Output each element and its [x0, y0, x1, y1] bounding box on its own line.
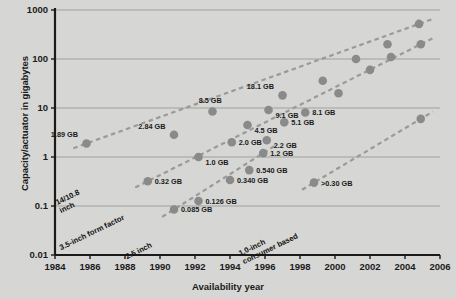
data-label: >0.30 GB: [321, 179, 352, 188]
x-tick-1984: 1984: [35, 261, 75, 272]
data-label: 0.540 GB: [256, 166, 287, 175]
x-tick-1990: 1990: [140, 261, 180, 272]
y-tick-1: 1: [2, 151, 48, 162]
chart-canvas: [0, 0, 456, 299]
x-tick-1998: 1998: [280, 261, 320, 272]
x-tick-1986: 1986: [70, 261, 110, 272]
y-tick-100: 100: [2, 53, 48, 64]
data-label: 2.84 GB: [138, 122, 165, 131]
data-label: 0.32 GB: [155, 177, 182, 186]
data-label: 8.1 GB: [312, 108, 335, 117]
data-label: 4.5 GB: [255, 126, 278, 135]
y-tick-10: 10: [2, 102, 48, 113]
data-label: 1.0 GB: [206, 158, 229, 167]
y-tick-0.1: 0.1: [2, 200, 48, 211]
data-label: 18.1 GB: [247, 82, 274, 91]
capacity-per-actuator-chart: Capacity/actuator in gigabytes Availabil…: [0, 0, 456, 299]
x-tick-2002: 2002: [350, 261, 390, 272]
data-label: 0.340 GB: [237, 176, 268, 185]
x-tick-1992: 1992: [175, 261, 215, 272]
x-axis-title: Availability year: [0, 281, 456, 292]
data-label: 0.126 GB: [206, 197, 237, 206]
x-tick-2004: 2004: [385, 261, 425, 272]
y-tick-1000: 1000: [2, 4, 48, 15]
y-tick-0.01: 0.01: [2, 249, 48, 260]
data-label: 2.0 GB: [239, 138, 262, 147]
x-tick-2000: 2000: [315, 261, 355, 272]
data-label: 1.89 GB: [51, 130, 78, 139]
data-label: 5.1 GB: [291, 118, 314, 127]
x-tick-2006: 2006: [420, 261, 456, 272]
data-label: 1.2 GB: [270, 149, 293, 158]
x-tick-1988: 1988: [105, 261, 145, 272]
data-label: 0.085 GB: [181, 205, 212, 214]
data-label: 8.5 GB: [199, 96, 222, 105]
